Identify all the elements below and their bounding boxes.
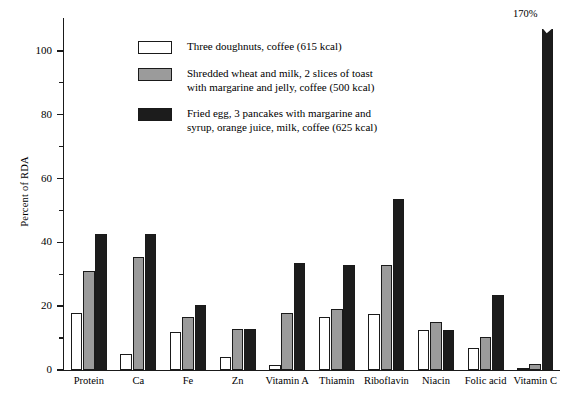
y-tick-major (57, 114, 63, 115)
y-tick-major (57, 178, 63, 179)
bar-chart: Percent of RDA 020406080100 ProteinCaFeZ… (0, 0, 567, 407)
bar-riboflavin-series-3 (393, 199, 405, 370)
y-tick-minor (59, 146, 63, 147)
x-axis-line (63, 370, 560, 371)
legend-label-2: Shredded wheat and milk, 2 slices of toa… (187, 67, 374, 94)
bar-thiamin-series-1 (319, 317, 331, 370)
category-label-zn: Zn (232, 375, 244, 386)
category-label-vitamin-a: Vitamin A (265, 375, 308, 386)
legend-label-line: Fried egg, 3 pancakes with margarine and (187, 107, 377, 121)
y-tick-minor (59, 82, 63, 83)
legend-swatch-black (138, 108, 172, 121)
legend-label-line: Shredded wheat and milk, 2 slices of toa… (187, 67, 374, 81)
legend-label-3: Fried egg, 3 pancakes with margarine and… (187, 107, 377, 134)
broken-bar-annotation: 170% (513, 8, 538, 19)
bar-ca-series-1 (120, 354, 132, 370)
bar-protein-series-2 (83, 271, 95, 370)
bar-niacin-series-2 (430, 322, 442, 370)
legend-item-2: Shredded wheat and milk, 2 slices of toa… (138, 67, 438, 94)
category-label-riboflavin: Riboflavin (364, 375, 409, 386)
legend-item-1: Three doughnuts, coffee (615 kcal) (138, 40, 438, 54)
legend-label-line: with margarine and jelly, coffee (500 kc… (187, 81, 374, 95)
bar-zn-series-3 (244, 329, 256, 370)
bar-niacin-series-3 (443, 330, 455, 370)
y-tick-major (57, 305, 63, 306)
y-tick-minor (59, 210, 63, 211)
bar-vitamin-c-series-3 (542, 29, 554, 370)
bar-thiamin-series-2 (331, 309, 343, 370)
category-label-fe: Fe (183, 375, 194, 386)
legend-label-line: syrup, orange juice, milk, coffee (625 k… (187, 121, 377, 135)
legend-item-3: Fried egg, 3 pancakes with margarine and… (138, 107, 438, 134)
bar-protein-series-1 (71, 313, 83, 370)
bar-ca-series-2 (133, 257, 145, 370)
bar-ca-series-3 (145, 234, 157, 370)
y-tick-major (57, 50, 63, 51)
bar-folic-acid-series-3 (492, 295, 504, 370)
y-tick-minor (59, 337, 63, 338)
bar-niacin-series-1 (418, 330, 430, 370)
category-label-ca: Ca (133, 375, 145, 386)
y-tick-label: 20 (22, 300, 52, 311)
bar-thiamin-series-3 (343, 265, 355, 370)
bar-zn-series-2 (232, 329, 244, 370)
y-axis-line (63, 18, 64, 371)
bar-vitamin-c-series-1 (517, 368, 529, 370)
bar-fe-series-1 (170, 332, 182, 370)
legend-swatch-gray (138, 68, 172, 81)
bar-riboflavin-series-1 (368, 314, 380, 370)
bar-folic-acid-series-2 (480, 337, 492, 371)
bar-fe-series-2 (182, 317, 194, 370)
legend-label-1: Three doughnuts, coffee (615 kcal) (187, 40, 342, 54)
y-tick-major (57, 369, 63, 370)
bar-riboflavin-series-2 (381, 265, 393, 370)
bar-fe-series-3 (195, 305, 207, 370)
category-label-niacin: Niacin (422, 375, 450, 386)
legend-swatch-white (138, 41, 172, 54)
category-label-thiamin: Thiamin (319, 375, 355, 386)
legend-label-line: Three doughnuts, coffee (615 kcal) (187, 40, 342, 54)
y-tick-label: 100 (22, 45, 52, 56)
category-label-vitamin-c: Vitamin C (513, 375, 556, 386)
y-tick-minor (59, 274, 63, 275)
bar-vitamin-a-series-1 (269, 365, 281, 370)
bar-vitamin-a-series-3 (294, 263, 306, 370)
y-tick-label: 40 (22, 236, 52, 247)
bar-folic-acid-series-1 (468, 348, 480, 370)
category-label-folic-acid: Folic acid (465, 375, 507, 386)
y-tick-label: 80 (22, 109, 52, 120)
bar-vitamin-a-series-2 (281, 313, 293, 370)
bar-protein-series-3 (95, 234, 107, 370)
chart-legend: Three doughnuts, coffee (615 kcal)Shredd… (138, 40, 438, 147)
bar-vitamin-c-series-2 (529, 364, 541, 370)
y-tick-major (57, 242, 63, 243)
category-label-protein: Protein (74, 375, 104, 386)
y-axis-title: Percent of RDA (19, 132, 30, 252)
bar-zn-series-1 (220, 357, 232, 370)
y-tick-label: 60 (22, 173, 52, 184)
y-tick-label: 0 (22, 364, 52, 375)
